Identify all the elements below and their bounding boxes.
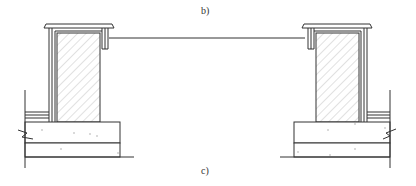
wall-section-right xyxy=(280,24,396,168)
base-slab-left xyxy=(25,122,120,143)
technical-drawing xyxy=(0,0,416,186)
wall-section-left xyxy=(18,24,134,168)
cap-left xyxy=(44,24,114,28)
base-slab-right xyxy=(294,122,390,143)
cap-right xyxy=(302,24,372,28)
hatched-core-right xyxy=(316,33,359,122)
hatched-core-left xyxy=(57,33,100,122)
